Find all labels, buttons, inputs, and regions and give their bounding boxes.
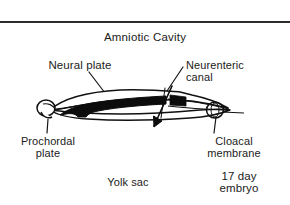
disc-tail-strip [222, 112, 244, 113]
leader-line-prochordal-plate [47, 119, 48, 133]
leader-line-cloacal-membrane [214, 117, 216, 133]
embryo-diagram-figure: Amniotic Cavity Neural plate Neurenteric… [0, 0, 290, 205]
embryo-line-drawing [0, 0, 290, 205]
caudal-black-wedge [170, 95, 186, 106]
prochordal-plate-bulb [37, 100, 55, 118]
leader-line-neural-plate [89, 72, 105, 93]
